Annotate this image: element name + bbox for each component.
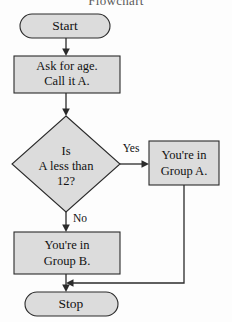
node-decision: Is A less than 12? — [12, 116, 120, 212]
connector-decision-no: No — [62, 212, 87, 232]
ask-age-label-line1: Ask for age. — [36, 59, 97, 73]
connector-start-to-ask — [62, 38, 70, 56]
group-a-label-line2: Group A. — [161, 164, 208, 178]
edge-label-yes: Yes — [123, 142, 140, 154]
stop-label: Stop — [59, 296, 84, 311]
group-b-label-line1: You're in — [44, 238, 90, 252]
node-stop: Stop — [25, 292, 118, 316]
connector-ask-to-decision — [62, 93, 70, 116]
node-ask-age: Ask for age. Call it A. — [14, 56, 120, 93]
decision-label-line2: A less than — [39, 159, 95, 173]
flowchart-diagram: Flowchart Start Ask for age. Call it A. … — [0, 0, 232, 322]
node-start: Start — [20, 14, 110, 38]
node-group-b: You're in Group B. — [14, 232, 120, 274]
edge-label-no: No — [73, 212, 87, 224]
node-group-a: You're in Group A. — [149, 141, 219, 185]
flowchart-canvas: Start Ask for age. Call it A. Is A less … — [0, 0, 232, 322]
ask-age-label-line2: Call it A. — [44, 74, 90, 88]
start-label: Start — [52, 18, 78, 33]
arrow-head-icon — [62, 109, 70, 117]
arrow-head-icon — [142, 160, 150, 168]
arrow-head-icon — [62, 285, 70, 293]
group-b-label-line2: Group B. — [44, 254, 91, 268]
decision-label-line3: 12? — [57, 174, 76, 188]
connector-decision-yes: Yes — [120, 142, 149, 168]
decision-label-line1: Is — [61, 144, 70, 158]
group-a-label-line1: You're in — [161, 148, 207, 162]
arrow-head-icon — [62, 225, 70, 233]
arrow-head-icon — [62, 49, 70, 57]
